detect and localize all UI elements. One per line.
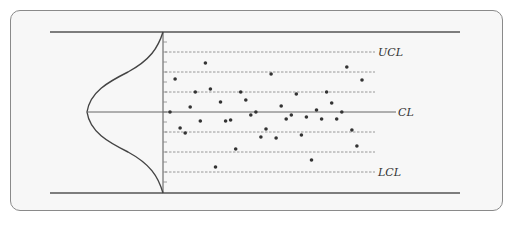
data-point <box>360 78 364 82</box>
data-point <box>325 90 329 94</box>
data-point <box>199 119 203 123</box>
data-point <box>320 117 324 121</box>
cl-label: CL <box>398 106 414 119</box>
data-point <box>188 105 192 109</box>
data-point <box>345 65 349 69</box>
data-point <box>315 108 319 112</box>
data-point <box>219 100 223 104</box>
data-point <box>204 61 208 65</box>
data-point <box>249 113 253 117</box>
data-point <box>254 110 258 114</box>
data-point <box>310 158 314 162</box>
data-point <box>350 128 354 132</box>
data-point <box>173 77 177 81</box>
data-point <box>234 147 238 151</box>
data-point <box>330 101 334 105</box>
data-points <box>168 61 364 169</box>
ucl-label: UCL <box>378 46 403 59</box>
data-point <box>279 104 283 108</box>
data-point <box>214 165 218 169</box>
data-point <box>239 90 243 94</box>
data-point <box>229 118 233 122</box>
data-point <box>183 131 187 135</box>
data-point <box>340 110 344 114</box>
data-point <box>244 98 248 102</box>
lcl-label: LCL <box>377 166 401 179</box>
data-point <box>284 117 288 121</box>
data-point <box>178 126 182 130</box>
data-point <box>290 113 294 117</box>
data-point <box>300 133 304 137</box>
data-point <box>355 144 359 148</box>
control-chart: UCL CL LCL <box>0 0 513 225</box>
data-point <box>274 136 278 140</box>
data-point <box>264 127 268 131</box>
data-point <box>194 90 198 94</box>
data-point <box>305 115 309 119</box>
data-point <box>269 72 273 76</box>
data-point <box>295 92 299 96</box>
data-point <box>209 87 213 91</box>
data-point <box>259 135 263 139</box>
data-point <box>335 117 339 121</box>
data-point <box>224 119 228 123</box>
data-point <box>168 110 172 114</box>
